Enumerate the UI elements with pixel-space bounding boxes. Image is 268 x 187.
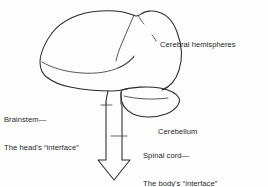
label-spinal-cord-line2: The body's “interface” <box>143 179 217 187</box>
temporal-lobe-outline <box>48 78 127 91</box>
label-brainstem-line1: Brainstem— <box>4 115 79 124</box>
label-spinal-cord: Spinal cord— The body's “interface” <box>143 132 217 187</box>
spinal-cord-arrow <box>98 103 130 180</box>
occipital-sulcus-mark <box>152 35 156 41</box>
label-brainstem-line2: The head's “interface” <box>4 143 79 152</box>
label-cerebral-hemispheres-line1: Cerebral hemispheres <box>160 40 236 49</box>
lateral-fissure-line <box>42 56 134 73</box>
parieto-occipital-notch <box>138 15 144 24</box>
cerebellum-folia-line <box>124 96 168 99</box>
frontal-lobe-outline <box>40 33 52 78</box>
brainstem-outline <box>106 91 108 103</box>
central-sulcus-line <box>116 15 134 61</box>
label-spinal-cord-line1: Spinal cord— <box>143 151 217 160</box>
label-brainstem: Brainstem— The head's “interface” <box>4 96 79 171</box>
brain-diagram-figure: Cerebral hemispheres Brainstem— The head… <box>0 0 268 187</box>
label-cerebral-hemispheres: Cerebral hemispheres <box>160 21 236 68</box>
